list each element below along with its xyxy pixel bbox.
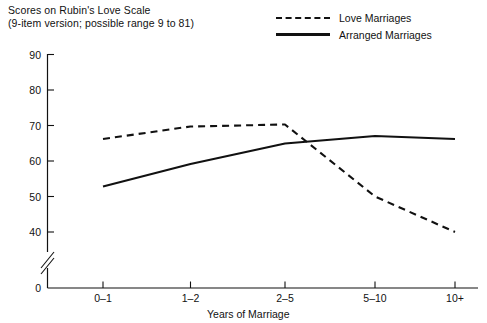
y-tick-label-80: 80	[29, 84, 41, 96]
x-tick-label-5-10: 5–10	[363, 292, 386, 304]
x-axis-title: Years of Marriage	[207, 308, 290, 320]
series-line-arranged-marriages	[103, 136, 455, 187]
y-tick-label-40: 40	[29, 226, 41, 238]
chart-figure: Scores on Rubin's Love Scale (9-item ver…	[0, 0, 487, 323]
y-tick-marks	[48, 55, 55, 233]
y-tick-label-50: 50	[29, 191, 41, 203]
x-tick-label-0-1: 0–1	[94, 292, 112, 304]
x-tick-label-1-2: 1–2	[182, 292, 200, 304]
series-line-love-marriages	[103, 125, 455, 233]
x-tick-marks	[103, 282, 455, 289]
y-tick-label-70: 70	[29, 120, 41, 132]
y-tick-label-0: 0	[35, 282, 41, 294]
plot-area: 90 80 70 60 50 40 0	[0, 0, 487, 323]
x-tick-label-2-5: 2–5	[276, 292, 294, 304]
x-tick-label-10-plus: 10+	[446, 292, 464, 304]
y-tick-label-90: 90	[29, 49, 41, 61]
y-tick-label-60: 60	[29, 155, 41, 167]
